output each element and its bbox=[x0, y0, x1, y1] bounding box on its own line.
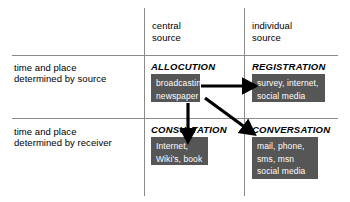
example-box-registration: survey, internet, social media bbox=[252, 74, 325, 102]
row-header-determined-by-source: time and place determined by source bbox=[14, 62, 106, 84]
column-header-individual-source: individual source bbox=[252, 20, 292, 43]
column-header-central-source: central source bbox=[152, 20, 181, 43]
quadrant-title-registration: REGISTRATION bbox=[252, 61, 325, 72]
example-box-consultation: Internet, Wiki's, book bbox=[151, 137, 208, 165]
quadrant-title-conversation: CONVERSATION bbox=[252, 124, 330, 135]
grid-vertical-line-2 bbox=[244, 8, 245, 196]
quadrant-title-allocution: ALLOCUTION bbox=[151, 61, 215, 72]
example-box-conversation: mail, phone, sms, msn social media bbox=[252, 137, 318, 179]
grid-horizontal-line-1 bbox=[12, 55, 338, 56]
example-box-allocution: broadcasting, newspaper bbox=[151, 74, 200, 102]
quadrant-title-consultation: CONSULTATION bbox=[151, 124, 227, 135]
row-header-determined-by-receiver: time and place determined by receiver bbox=[14, 126, 112, 148]
information-traffic-matrix: central source individual source time an… bbox=[0, 0, 350, 202]
grid-horizontal-line-2 bbox=[12, 118, 338, 119]
grid-vertical-line-1 bbox=[144, 8, 145, 196]
